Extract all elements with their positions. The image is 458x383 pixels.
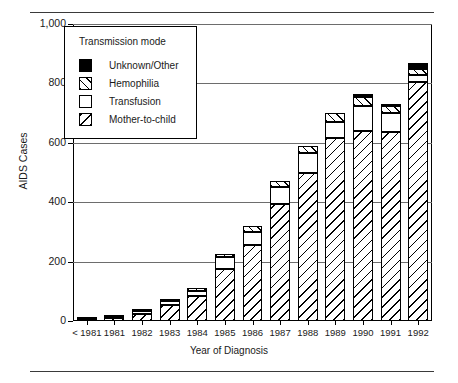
bar-segment-mother-to-child — [215, 269, 235, 321]
bar-segment-unknown-other — [353, 94, 373, 97]
bar-segment-mother-to-child — [381, 132, 401, 321]
bar-segment-hemophilia — [325, 113, 345, 122]
bar-segment-transfusion — [381, 113, 401, 132]
legend-item-label: Mother-to-child — [109, 113, 176, 126]
bar-segment-hemophilia — [132, 309, 152, 311]
bar-segment-transfusion — [270, 187, 290, 203]
bar-segment-mother-to-child — [270, 204, 290, 321]
x-axis-title: Year of Diagnosis — [0, 345, 458, 356]
bar-segment-unknown-other — [381, 104, 401, 106]
x-tick-mark — [197, 321, 198, 325]
bar-segment-mother-to-child — [132, 314, 152, 321]
bar-1990 — [353, 24, 373, 321]
bar-segment-transfusion — [132, 311, 152, 313]
bar-1992 — [408, 24, 428, 321]
y-tick-label: 800 — [24, 77, 66, 88]
y-tick-label: 200 — [24, 256, 66, 267]
bar-segment-unknown-other — [408, 63, 428, 69]
x-tick-mark — [170, 321, 171, 325]
bar-segment-transfusion — [243, 232, 263, 245]
bar-segment-hemophilia — [243, 226, 263, 232]
bar-segment-hemophilia — [77, 317, 97, 319]
x-tick-mark — [280, 321, 281, 325]
bar-1987 — [270, 24, 290, 321]
bar-segment-mother-to-child — [160, 305, 180, 321]
bar-segment-transfusion — [215, 257, 235, 269]
legend-swatch-icon — [79, 77, 92, 90]
x-tick-mark — [335, 321, 336, 325]
x-tick-mark — [253, 321, 254, 325]
bar-1986 — [243, 24, 263, 321]
bar-segment-hemophilia — [270, 181, 290, 187]
bar-segment-mother-to-child — [187, 296, 207, 321]
bar-1991 — [381, 24, 401, 321]
bar-segment-transfusion — [325, 122, 345, 138]
bar-segment-transfusion — [298, 153, 318, 172]
bar-1989 — [325, 24, 345, 321]
bar-segment-mother-to-child — [298, 173, 318, 322]
y-tick-label: 600 — [24, 137, 66, 148]
bar-segment-transfusion — [187, 291, 207, 295]
bar-segment-hemophilia — [408, 69, 428, 75]
legend-item-label: Unknown/Other — [109, 59, 178, 72]
bar-segment-transfusion — [408, 75, 428, 82]
bar-segment-hemophilia — [187, 288, 207, 291]
bar-segment-mother-to-child — [243, 245, 263, 321]
bar-1985 — [215, 24, 235, 321]
bar-segment-transfusion — [353, 106, 373, 131]
legend-swatch-icon — [79, 59, 92, 72]
bar-segment-mother-to-child — [353, 131, 373, 321]
y-tick-label: 1,000 — [24, 18, 66, 29]
y-tick-label: 0 — [24, 315, 66, 326]
bar-segment-hemophilia — [353, 97, 373, 106]
bar-segment-mother-to-child — [408, 82, 428, 321]
legend-swatch-icon — [79, 95, 92, 108]
legend-swatch-icon — [79, 113, 92, 126]
x-tick-mark — [142, 321, 143, 325]
bar-segment-mother-to-child — [325, 138, 345, 321]
x-tick-mark — [308, 321, 309, 325]
x-tick-mark — [363, 321, 364, 325]
x-tick-mark — [114, 321, 115, 325]
x-tick-label: 1992 — [396, 327, 440, 338]
x-tick-mark — [225, 321, 226, 325]
bar-segment-hemophilia — [160, 299, 180, 301]
x-tick-mark — [87, 321, 88, 325]
aids-cases-stacked-bar-chart: 02004006008001,000 AIDS Cases < 19811981… — [0, 0, 458, 383]
bar-segment-hemophilia — [298, 146, 318, 153]
x-tick-mark — [418, 321, 419, 325]
bar-segment-hemophilia — [215, 254, 235, 257]
bar-segment-transfusion — [160, 301, 180, 305]
legend-title: Transmission mode — [79, 36, 166, 47]
y-axis-title: AIDS Cases — [17, 91, 29, 231]
x-tick-mark — [391, 321, 392, 325]
y-tick-label: 400 — [24, 196, 66, 207]
bar-segment-hemophilia — [104, 315, 124, 317]
legend-item-label: Transfusion — [109, 95, 161, 108]
legend-item-label: Hemophilia — [109, 77, 159, 90]
legend: Transmission mode Unknown/OtherHemophili… — [64, 26, 197, 139]
y-tick-mark — [68, 321, 73, 322]
bar-1988 — [298, 24, 318, 321]
bar-segment-hemophilia — [381, 106, 401, 113]
